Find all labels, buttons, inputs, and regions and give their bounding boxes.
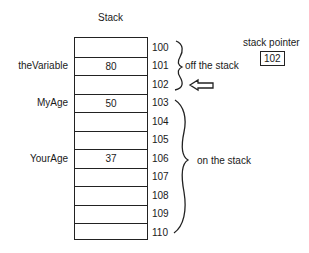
brace-off-the-stack-icon	[175, 41, 182, 90]
stack-pointer-label: stack pointer	[243, 37, 300, 48]
stack-pointer-value: 102	[260, 51, 285, 66]
brace-on-the-stack-icon	[174, 100, 188, 233]
on-the-stack-label: on the stack	[197, 155, 251, 166]
off-the-stack-label: off the stack	[185, 60, 239, 71]
left-arrow-icon	[190, 80, 213, 90]
